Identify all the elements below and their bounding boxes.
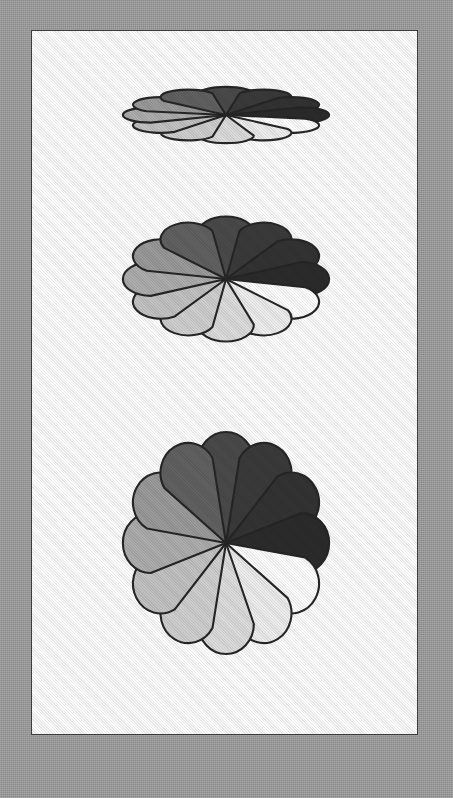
middle-rosette-svg <box>94 199 358 359</box>
top-rosette-svg <box>94 79 358 151</box>
figure-page <box>31 30 418 735</box>
bottom-rosette-svg <box>94 401 358 685</box>
rosette-middle <box>94 199 358 359</box>
panel-top-rosette <box>32 79 418 151</box>
rosette-top <box>94 79 358 151</box>
panel-middle-rosette <box>32 199 418 359</box>
panel-bottom-rosette <box>32 401 418 685</box>
rosette-bottom <box>94 401 358 685</box>
